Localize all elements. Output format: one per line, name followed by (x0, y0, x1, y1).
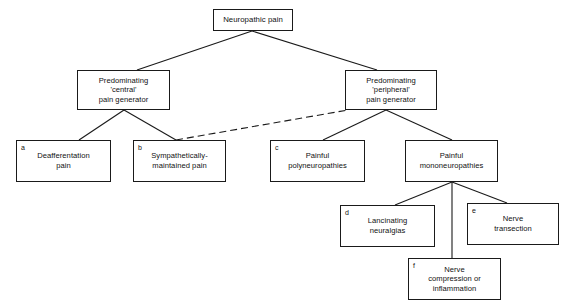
edge-central-to-a (79, 110, 124, 140)
edge-root-to-peripheral (252, 31, 377, 70)
node-tag-c: c (275, 144, 279, 152)
node-predominating-peripheral-pain-generator[interactable]: Predominating 'peripheral' pain generato… (345, 70, 437, 110)
node-label-central: Predominating 'central' pain generator (96, 76, 152, 105)
node-tag-f: f (413, 262, 415, 270)
neuropathic-pain-diagram: Neuropathic pain Predominating 'central'… (0, 0, 570, 301)
edge-peripheral-to-b-dashed (176, 110, 348, 140)
node-a-deafferentation-pain[interactable]: a Deafferentation pain (16, 140, 111, 182)
node-label-peripheral: Predominating 'peripheral' pain generato… (363, 76, 419, 105)
edge-central-to-b (124, 110, 176, 140)
node-label-e: Nerve transection (491, 214, 535, 233)
edge-peripheral-to-c (323, 110, 386, 140)
node-label-mono: Painful mononeuropathies (417, 151, 487, 170)
node-tag-b: b (138, 144, 142, 152)
node-tag-d: d (345, 209, 349, 217)
edge-peripheral-to-mono (386, 110, 452, 140)
node-e-nerve-transection[interactable]: e Nerve transection (467, 203, 559, 245)
node-label-c: Painful polyneuropathies (285, 151, 350, 170)
node-tag-a: a (21, 144, 25, 152)
edge-mono-to-d (395, 182, 452, 205)
node-predominating-central-pain-generator[interactable]: Predominating 'central' pain generator (77, 70, 170, 110)
node-f-nerve-compression-or-inflammation[interactable]: f Nerve compression or inflammation (408, 258, 501, 300)
node-tag-e: e (472, 207, 476, 215)
node-d-lancinating-neuralgias[interactable]: d Lancinating neuralgias (340, 205, 435, 247)
node-c-painful-polyneuropathies[interactable]: c Painful polyneuropathies (270, 140, 365, 182)
node-b-sympathetically-maintained-pain[interactable]: b Sympathetically- maintained pain (133, 140, 226, 182)
edge-root-to-central (137, 31, 252, 70)
node-label-b: Sympathetically- maintained pain (148, 151, 211, 170)
edge-mono-to-e (452, 182, 507, 203)
node-label-root: Neuropathic pain (220, 15, 286, 25)
node-label-d: Lancinating neuralgias (365, 216, 410, 235)
node-label-a: Deafferentation pain (34, 151, 93, 170)
node-neuropathic-pain[interactable]: Neuropathic pain (213, 9, 293, 31)
node-label-f: Nerve compression or inflammation (425, 265, 484, 294)
node-painful-mononeuropathies[interactable]: Painful mononeuropathies (405, 140, 498, 182)
